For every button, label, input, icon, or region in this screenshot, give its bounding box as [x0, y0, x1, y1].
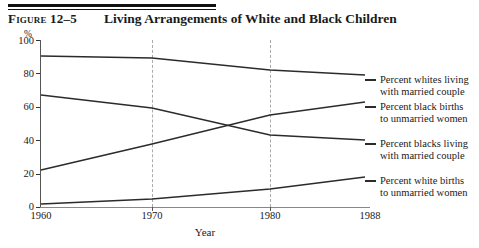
y-tick-label-100: 100 — [10, 35, 34, 46]
legend-whites-married-line2: with married couple — [380, 86, 469, 98]
x-tick-label-1960: 1960 — [21, 210, 61, 221]
legend-black-births-line1: Percent black births — [380, 101, 467, 113]
y-tick-mark-40 — [36, 140, 40, 141]
legend-whites-married-line1: Percent whites living — [380, 74, 469, 86]
y-tick-mark-100 — [36, 40, 40, 41]
y-tick-label-60: 60 — [10, 101, 34, 112]
figure-label: Figure 12–5 — [8, 11, 77, 27]
x-tick-label-1988: 1988 — [350, 210, 390, 221]
x-axis-line — [40, 207, 370, 208]
legend-stub-white-births — [365, 180, 376, 182]
series-lines — [0, 0, 479, 248]
y-tick-label-40: 40 — [10, 135, 34, 146]
x-tick-label-1980: 1980 — [250, 210, 290, 221]
gridline-1970 — [152, 40, 153, 207]
y-tick-label-80: 80 — [10, 68, 34, 79]
series-line-blacks-married — [41, 95, 365, 140]
legend-stub-blacks-married — [365, 143, 376, 145]
y-tick-label-20: 20 — [10, 168, 34, 179]
y-tick-mark-20 — [36, 174, 40, 175]
series-line-white-births — [41, 177, 365, 204]
y-tick-mark-80 — [36, 73, 40, 74]
legend-stub-black-births — [365, 106, 376, 108]
title-rule-thick — [8, 4, 216, 7]
series-line-black-births — [41, 102, 365, 170]
legend-blacks-married-line1: Percent blacks living — [380, 138, 468, 150]
y-axis-line — [40, 40, 41, 207]
legend-stub-whites-married — [365, 79, 376, 81]
legend-white-births-line1: Percent white births — [380, 175, 467, 187]
figure-title: Living Arrangements of White and Black C… — [104, 11, 397, 27]
figure-container: Figure 12–5 Living Arrangements of White… — [0, 0, 479, 248]
legend-black-births: Percent black births to unmarried women — [380, 101, 467, 124]
legend-blacks-married-line2: with married couple — [380, 150, 468, 162]
legend-white-births: Percent white births to unmarried women — [380, 175, 467, 198]
y-tick-mark-0 — [36, 207, 40, 208]
legend-whites-married: Percent whites living with married coupl… — [380, 74, 469, 97]
title-rule-thin — [8, 9, 216, 10]
series-line-whites-married — [41, 56, 365, 75]
gridline-1980 — [270, 40, 271, 207]
legend-black-births-line2: to unmarried women — [380, 113, 467, 125]
y-tick-mark-60 — [36, 107, 40, 108]
x-axis-title: Year — [175, 226, 235, 238]
legend-blacks-married: Percent blacks living with married coupl… — [380, 138, 468, 161]
legend-white-births-line2: to unmarried women — [380, 187, 467, 199]
x-tick-label-1970: 1970 — [132, 210, 172, 221]
